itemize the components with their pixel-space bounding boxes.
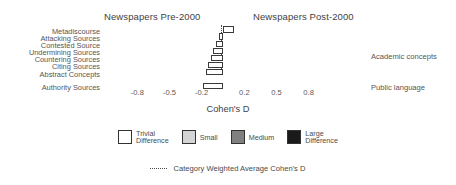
bar-row [116, 54, 330, 61]
bar[interactable] [216, 41, 223, 47]
x-axis-tick: 0.5 [271, 88, 282, 97]
bar[interactable] [211, 55, 223, 61]
legend-label: Large Difference [305, 130, 338, 145]
plot-area [116, 26, 330, 86]
y-axis-label: Abstract Concepts [0, 71, 100, 78]
bar[interactable] [223, 26, 234, 32]
bar-row [116, 47, 330, 54]
x-axis: -0.8-0.5-0.20.20.50.8 [116, 88, 330, 100]
legend-swatch-large [287, 130, 301, 144]
legend: Trivial Difference Small Medium Large Di… [0, 130, 456, 145]
x-axis-tick: -0.8 [131, 88, 144, 97]
panel-title-pre-2000: Newspapers Pre-2000 [104, 11, 200, 22]
legend-swatch-medium [231, 130, 245, 144]
bar[interactable] [206, 69, 223, 75]
x-axis-tick: -0.5 [163, 88, 176, 97]
legend-swatch-trivial [118, 130, 132, 144]
footnote-label: Category Weighted Average Cohen's D [173, 164, 305, 173]
panel-title-post-2000: Newspapers Post-2000 [253, 11, 354, 22]
x-axis-tick: 0.2 [239, 88, 250, 97]
x-axis-title: Cohen's D [0, 104, 456, 114]
bar[interactable] [219, 33, 223, 39]
bar-row [116, 69, 330, 76]
legend-item-trivial[interactable]: Trivial Difference [118, 130, 169, 145]
legend-label: Medium [249, 134, 275, 141]
legend-label: Trivial Difference [136, 130, 169, 145]
bar-row [116, 33, 330, 40]
y-axis-label: Authority Sources [0, 84, 100, 91]
group-label-public-language: Public language [371, 83, 425, 92]
legend-label: Small [200, 134, 218, 141]
bar[interactable] [208, 62, 223, 68]
bar-row [116, 40, 330, 47]
x-axis-tick: -0.2 [195, 88, 208, 97]
y-axis-labels: Metadiscourse Attacking Sources Conteste… [0, 28, 100, 91]
legend-item-medium[interactable]: Medium [231, 130, 275, 144]
legend-swatch-small [182, 130, 196, 144]
bar-row [116, 26, 330, 33]
dotted-line-icon [150, 168, 167, 169]
bar-row [116, 61, 330, 68]
legend-item-large[interactable]: Large Difference [287, 130, 338, 145]
bar[interactable] [213, 48, 223, 54]
group-label-academic-concepts: Academic concepts [371, 52, 437, 61]
legend-item-small[interactable]: Small [182, 130, 218, 144]
x-axis-tick: 0.8 [303, 88, 314, 97]
footnote: Category Weighted Average Cohen's D [0, 164, 456, 173]
chart-figure: Newspapers Pre-2000 Newspapers Post-2000… [0, 0, 456, 185]
